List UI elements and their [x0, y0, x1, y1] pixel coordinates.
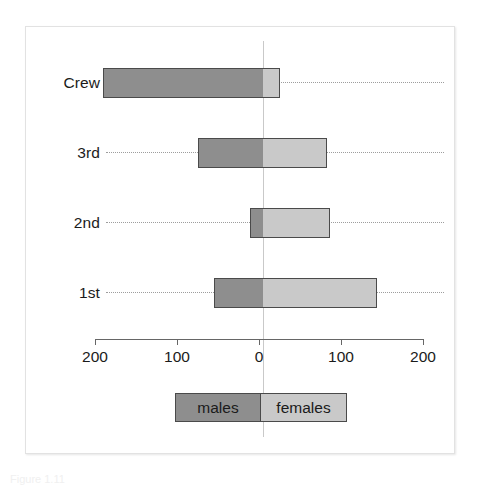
legend-item-males[interactable]: males	[176, 394, 261, 421]
bar-males-1st[interactable]	[214, 278, 263, 308]
bar-group-crew	[26, 68, 456, 98]
bar-males-3rd[interactable]	[198, 138, 263, 168]
bar-group-3rd	[26, 138, 456, 168]
x-axis-tick	[95, 339, 96, 345]
x-axis-tick	[423, 339, 424, 345]
chart-legend: males females	[175, 393, 347, 422]
bar-males-2nd[interactable]	[250, 208, 263, 238]
bar-females-2nd[interactable]	[263, 208, 330, 238]
figure-frame: Crew 3rd 2nd 1st	[25, 26, 455, 454]
chart-row-3rd: 3rd	[26, 131, 456, 175]
chart-row-crew: Crew	[26, 61, 456, 105]
bar-females-3rd[interactable]	[263, 138, 327, 168]
x-axis-tick-label: 200	[393, 348, 453, 366]
x-axis-tick	[341, 339, 342, 345]
legend-item-females[interactable]: females	[261, 394, 346, 421]
bar-group-2nd	[26, 208, 456, 238]
chart-row-1st: 1st	[26, 271, 456, 315]
figure-caption: Figure 1.11	[10, 473, 65, 485]
x-axis-tick-label: 100	[147, 348, 207, 366]
x-axis-tick-label: 0	[229, 348, 289, 366]
x-axis-tick	[259, 339, 260, 345]
x-axis-tick	[177, 339, 178, 345]
x-axis-tick-label: 200	[65, 348, 125, 366]
bar-females-crew[interactable]	[263, 68, 280, 98]
plot-area: Crew 3rd 2nd 1st	[26, 27, 456, 455]
bar-group-1st	[26, 278, 456, 308]
bar-females-1st[interactable]	[263, 278, 377, 308]
x-axis: 200 100 0 100 200	[26, 329, 456, 389]
bar-males-crew[interactable]	[103, 68, 263, 98]
x-axis-tick-label: 100	[311, 348, 371, 366]
chart-row-2nd: 2nd	[26, 201, 456, 245]
